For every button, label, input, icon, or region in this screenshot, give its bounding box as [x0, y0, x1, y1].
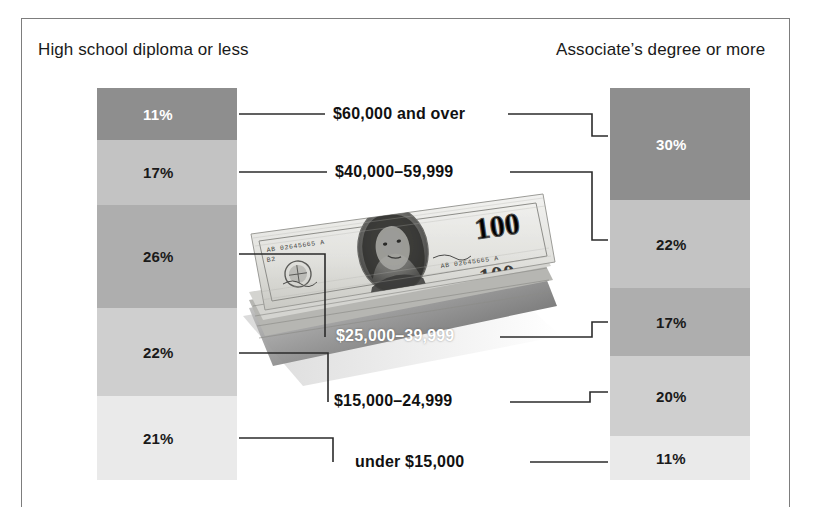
- bar-segment-right-4: 11%: [610, 436, 750, 480]
- bar-segment-right-3: 20%: [610, 356, 750, 436]
- bar-segment-left-1: 17%: [97, 140, 237, 205]
- bar-percent-label-left-3: 22%: [143, 344, 174, 361]
- svg-text:100: 100: [473, 206, 522, 245]
- bar-segment-left-2: 26%: [97, 205, 237, 308]
- category-label-under-15000: under $15,000: [355, 453, 464, 471]
- bar-percent-label-right-2: 17%: [656, 314, 687, 331]
- bar-percent-label-right-0: 30%: [656, 136, 687, 153]
- bar-percent-label-right-3: 20%: [656, 388, 687, 405]
- category-label-40000-59999: $40,000–59,999: [335, 163, 453, 181]
- bar-stack-right: 30%22%17%20%11%: [610, 88, 750, 480]
- category-label-25000-39999: $25,000–39,999: [336, 327, 454, 345]
- bar-segment-left-4: 21%: [97, 396, 237, 480]
- bar-percent-label-left-4: 21%: [143, 430, 174, 447]
- infographic-root: High school diploma or less Associate’s …: [0, 0, 818, 509]
- category-label-60000-and-over: $60,000 and over: [333, 105, 465, 123]
- money-photo: THE UNITED STATES OF AMERICA: [243, 188, 561, 398]
- column-heading-right: Associate’s degree or more: [556, 40, 765, 60]
- bar-percent-label-left-0: 11%: [143, 106, 173, 123]
- bar-segment-left-3: 22%: [97, 308, 237, 396]
- bar-segment-right-0: 30%: [610, 88, 750, 200]
- bar-percent-label-right-1: 22%: [656, 236, 687, 253]
- bar-segment-left-0: 11%: [97, 88, 237, 140]
- bar-stack-left: 11%17%26%22%21%: [97, 88, 237, 480]
- bar-percent-label-left-2: 26%: [143, 248, 174, 265]
- bar-percent-label-right-4: 11%: [656, 450, 686, 467]
- column-heading-left: High school diploma or less: [38, 40, 249, 60]
- bar-segment-right-1: 22%: [610, 200, 750, 288]
- category-label-15000-24999: $15,000–24,999: [334, 392, 452, 410]
- svg-text:B2: B2: [266, 256, 276, 264]
- bar-percent-label-left-1: 17%: [143, 164, 174, 181]
- bar-segment-right-2: 17%: [610, 288, 750, 356]
